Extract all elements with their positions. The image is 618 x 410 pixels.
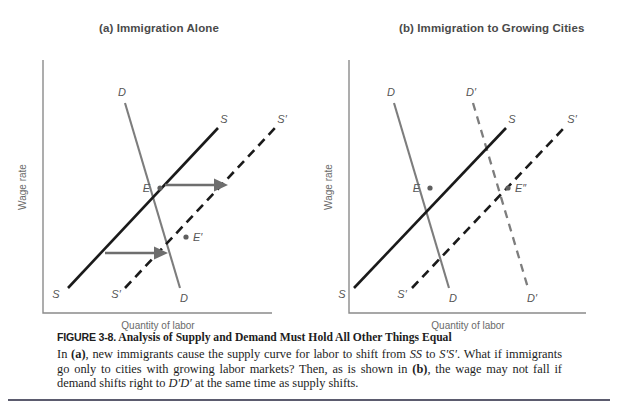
label-s-prime-right-a: S′ <box>277 113 287 125</box>
label-d-bottom-a: D <box>180 292 188 304</box>
label-s-right-b: S <box>508 113 516 125</box>
label-s-left-b: S <box>338 288 346 300</box>
y-axis-label-b: Wage rate <box>323 164 334 210</box>
caption-ref-b: (b) <box>412 362 427 376</box>
y-axis-label-a: Wage rate <box>17 164 28 210</box>
supply-curve-s-b <box>354 128 506 288</box>
caption-ref-a: (a) <box>71 347 85 361</box>
demand-curve-d-a <box>125 103 180 288</box>
label-e-b: E <box>413 182 421 194</box>
supply-curve-s-prime-a <box>125 128 275 288</box>
label-s-prime-right-b: S′ <box>567 113 577 125</box>
caption-body: In (a), new immigrants cause the supply … <box>57 347 562 391</box>
label-s-right-a: S <box>220 113 228 125</box>
supply-shift-arrow-lower-a <box>105 247 168 260</box>
label-s-prime-left-b: S′ <box>397 288 407 300</box>
equilibrium-point-e-prime-a <box>183 234 188 239</box>
label-d-bottom-b: D <box>449 292 457 304</box>
label-s-prime-left-a: S′ <box>111 288 121 300</box>
caption-text-6: at the same time as supply shifts. <box>192 376 359 390</box>
figure-caption: FIGURE 3-8. Analysis of Supply and Deman… <box>57 330 562 391</box>
caption-heading: FIGURE 3-8. Analysis of Supply and Deman… <box>57 330 562 345</box>
caption-text-1: In <box>57 347 71 361</box>
label-e-prime-a: E′ <box>193 231 203 243</box>
label-e-a: E <box>143 182 151 194</box>
label-d-prime-bottom-b: D′ <box>527 292 538 304</box>
caption-text-3: to <box>422 347 439 361</box>
caption-text-2: , new immigrants cause the supply curve … <box>86 347 410 361</box>
equilibrium-point-e-b <box>427 185 432 190</box>
label-d-top-b: D <box>387 86 395 98</box>
bottom-divider <box>8 399 610 401</box>
figure-page: (a) Immigration Alone (b) Immigration to… <box>0 0 618 410</box>
supply-curve-s-prime-b <box>412 128 564 288</box>
label-d-top-a: D <box>118 86 126 98</box>
equilibrium-point-e-double-prime-b <box>505 185 510 190</box>
caption-curve-dd-prime: D′D′ <box>169 376 192 390</box>
axis-lines-a <box>43 60 272 313</box>
panel-a-title: (a) Immigration Alone <box>99 22 219 34</box>
equilibrium-point-e-a <box>157 185 162 190</box>
caption-curve-ss: SS <box>410 347 422 361</box>
panel-b-title: (b) Immigration to Growing Cities <box>399 22 584 34</box>
figure-number: FIGURE 3-8. <box>57 331 116 343</box>
supply-demand-chart-a: D D S S S′ S′ E E′ Wage rate Quantity of… <box>10 48 300 333</box>
caption-curve-ss-prime: S′S′ <box>439 347 457 361</box>
label-d-prime-top-b: D′ <box>466 86 477 98</box>
chart-panel-b: D D D′ D′ S S S′ S′ E E″ Wage rate Quant… <box>316 48 606 333</box>
label-e-double-prime-b: E″ <box>515 182 527 194</box>
supply-demand-chart-b: D D D′ D′ S S S′ S′ E E″ Wage rate Quant… <box>316 48 606 333</box>
figure-heading-text: Analysis of Supply and Demand Must Hold … <box>118 331 451 344</box>
supply-curve-s-a <box>68 128 218 288</box>
chart-panel-a: D D S S S′ S′ E E′ Wage rate Quantity of… <box>10 48 300 333</box>
label-s-left-a: S <box>52 288 60 300</box>
